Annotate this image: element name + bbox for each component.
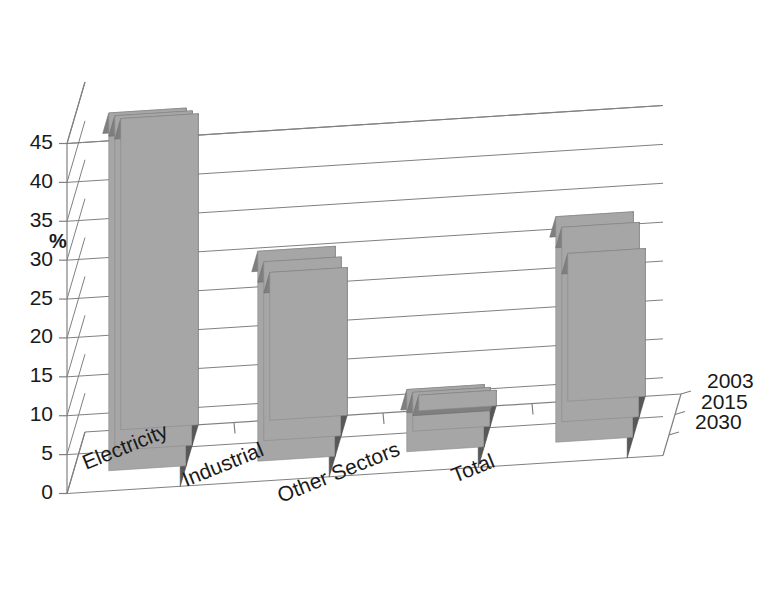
series-tick-2030 <box>669 432 679 435</box>
bar-electricity-2003 <box>115 114 198 446</box>
category-label-total: Total <box>448 449 498 487</box>
y-axis-title: % <box>49 230 67 252</box>
bars-group <box>103 108 645 486</box>
chart-container: 051015202530354045 ElectricityIndustrial… <box>0 0 766 599</box>
y-tick-label-0: 0 <box>41 480 53 503</box>
y-tick-label-35: 35 <box>30 208 53 231</box>
series-label-2030: 2030 <box>695 410 742 433</box>
sidewall-gridline-30 <box>67 199 85 261</box>
y-tick-label-40: 40 <box>30 169 53 192</box>
bar-front-face <box>270 268 347 421</box>
side-wall-top <box>67 82 85 144</box>
sidewall-gridline-40 <box>67 121 85 183</box>
series-labels-group: 200320152030 <box>695 369 754 433</box>
y-tick-label-10: 10 <box>30 402 53 425</box>
y-tick-label-20: 20 <box>30 324 53 347</box>
sidewall-gridline-25 <box>67 238 85 300</box>
y-tick-label-15: 15 <box>30 363 53 386</box>
y-tick-label-25: 25 <box>30 286 53 309</box>
depth-axis <box>663 394 681 456</box>
sidewall-gridline-10 <box>67 354 85 416</box>
category-tick-2 <box>383 413 384 424</box>
bar-industrial-2003 <box>264 268 347 436</box>
series-tick-2015 <box>675 412 685 415</box>
sidewall-gridline-35 <box>67 160 85 222</box>
sidewall-gridline-5 <box>67 393 85 455</box>
category-tick-1 <box>234 423 235 434</box>
category-tick-3 <box>532 404 533 415</box>
bar-front-face <box>568 249 645 402</box>
sidewall-gridline-20 <box>67 276 85 338</box>
y-tick-labels-group: 051015202530354045 <box>30 130 67 503</box>
bar-front-face <box>121 114 198 430</box>
bar-total-2003 <box>562 249 645 417</box>
y-tick-label-45: 45 <box>30 130 53 153</box>
sidewall-gridline-15 <box>67 315 85 377</box>
bar-chart-3d: 051015202530354045 ElectricityIndustrial… <box>0 0 766 599</box>
y-tick-label-5: 5 <box>41 441 53 464</box>
series-tick-2003 <box>681 391 691 394</box>
